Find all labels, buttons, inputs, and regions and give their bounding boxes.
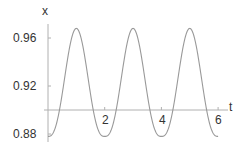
x-tick-label-6: 6 [215, 114, 222, 126]
data-series-curve [48, 28, 218, 136]
y-tick-label-0.92: 0.92 [13, 80, 36, 92]
chart-plot-area [0, 0, 241, 147]
y-tick-label-0.88: 0.88 [13, 128, 36, 140]
x-tick-label-4: 4 [159, 114, 166, 126]
y-axis-label: x [42, 5, 48, 17]
y-tick-label-0.96: 0.96 [13, 32, 36, 44]
x-axis-label: t [229, 101, 232, 113]
x-tick-label-2: 2 [102, 114, 109, 126]
